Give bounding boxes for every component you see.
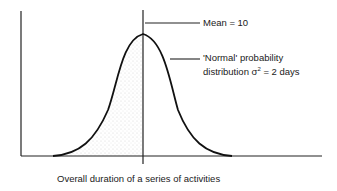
x-axis-label: Overall duration of a series of activiti… [57, 173, 220, 184]
shaded-area [53, 34, 143, 156]
distribution-text: distribution σ [203, 66, 257, 77]
mean-label: Mean = 10 [203, 17, 248, 28]
distribution-value: = 2 days [261, 66, 300, 77]
distribution-label-line2: distribution σ2 = 2 days [203, 64, 300, 77]
normal-distribution-diagram [0, 0, 337, 191]
distribution-label-line1: 'Normal' probability [203, 52, 283, 63]
